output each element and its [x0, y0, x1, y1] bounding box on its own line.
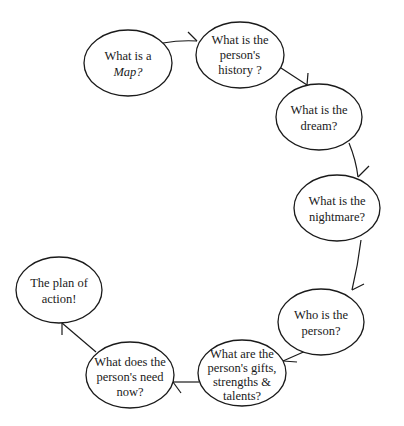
node-need: What does the person's need now?	[86, 342, 174, 408]
svg-text:Map?: Map?	[112, 65, 143, 79]
edge-dream-to-nightmare	[349, 143, 358, 177]
node-nightmare: What is the nightmare?	[294, 175, 380, 241]
arrowhead-need	[173, 382, 181, 393]
node-gifts-line-3: strengths &	[213, 375, 271, 389]
arrowhead-dream	[307, 73, 308, 85]
node-dream-line-2: dream?	[301, 119, 338, 133]
node-gifts-line-2: person's gifts,	[208, 361, 277, 375]
node-nightmare-line-2: nightmare?	[309, 210, 366, 224]
node-history-line-1: What is the	[212, 33, 269, 47]
node-gifts: What are the person's gifts, strengths &…	[198, 340, 286, 406]
edge-need-to-plan	[62, 323, 96, 352]
node-who-line-2: person?	[302, 324, 341, 338]
node-who-line-1: Who is the	[294, 308, 349, 322]
node-nightmare-line-1: What is the	[309, 194, 366, 208]
map-process-diagram: What is a Map? What is the person's hist…	[0, 0, 404, 426]
edge-map-to-history	[163, 41, 197, 43]
node-gifts-line-1: What are the	[210, 347, 274, 361]
node-dream-line-1: What is the	[291, 103, 348, 117]
arrowhead-history	[188, 32, 197, 41]
edge-history-to-dream	[281, 68, 307, 85]
node-map: What is a Map?	[84, 30, 172, 96]
node-history: What is the person's history ?	[196, 22, 284, 88]
node-need-line-3: now?	[116, 385, 144, 399]
edge-nightmare-to-who	[352, 240, 361, 290]
arrowhead-gifts	[283, 361, 297, 362]
node-need-line-2: person's need	[96, 370, 164, 384]
node-map-line-2: Map?	[112, 65, 143, 79]
arrowhead-nightmare	[358, 166, 369, 177]
node-plan: The plan of action!	[16, 257, 102, 323]
node-history-line-3: history ?	[218, 63, 262, 77]
node-need-line-1: What does the	[94, 355, 166, 369]
node-map-line-1: What is a	[104, 49, 152, 63]
node-plan-line-2: action!	[42, 292, 77, 306]
node-plan-line-1: The plan of	[30, 276, 88, 290]
node-dream: What is the dream?	[276, 84, 362, 150]
node-who: Who is the person?	[278, 289, 364, 355]
node-gifts-line-4: talents?	[223, 389, 262, 403]
node-history-line-2: person's	[220, 48, 261, 62]
svg-text:What is a: What is a	[104, 49, 152, 63]
